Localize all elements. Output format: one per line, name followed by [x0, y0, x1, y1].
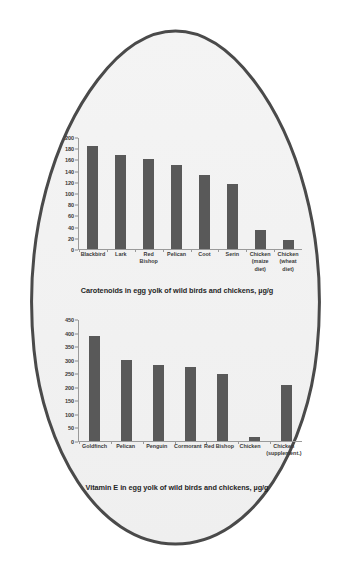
bar-slot [163, 138, 191, 249]
y-axis-tick-label: 200 [65, 385, 74, 391]
x-axis-tick-label: Pelican [163, 251, 191, 273]
bar [87, 146, 98, 249]
bar-series-carotenoids [79, 138, 302, 249]
x-axis-labels-vitamin-e: GoldfinchPelicanPenguinCormorantRed Bish… [79, 443, 302, 458]
x-axis-tick-label: Blackbird [79, 251, 107, 273]
bar [249, 437, 260, 441]
x-axis-tick-label: Chicken (maize diet) [246, 251, 274, 273]
egg-shaped-figure: 020406080100120140160180200 BlackbirdLar… [0, 0, 351, 572]
bar [255, 230, 266, 249]
bar-slot [218, 138, 246, 249]
bar-slot [191, 138, 219, 249]
y-axis-tick-label: 140 [65, 169, 74, 175]
y-axis-tick-label: 400 [65, 331, 74, 337]
x-axis-tick-label: Goldfinch [79, 443, 110, 458]
y-axis-tick-label: 350 [65, 344, 74, 350]
y-axis-tick-label: 0 [71, 247, 74, 253]
x-axis-tick-label: Coot [191, 251, 219, 273]
bar-slot [111, 320, 143, 441]
bar [143, 159, 154, 249]
y-axis-tick-label: 160 [65, 157, 74, 163]
y-axis-tick-label: 120 [65, 180, 74, 186]
bar-slot [206, 320, 238, 441]
x-axis-tick-label: Lark [107, 251, 135, 273]
y-axis-tick-label: 40 [68, 225, 74, 231]
bar-slot [270, 320, 302, 441]
bar-slot [135, 138, 163, 249]
x-axis-tick-label: Chicken [235, 443, 266, 458]
y-axis-tick-label: 80 [68, 202, 74, 208]
y-axis-tick-label: 200 [65, 135, 74, 141]
bar [217, 374, 228, 441]
bar-slot [274, 138, 302, 249]
bar [185, 367, 196, 441]
chart-caption-carotenoids: Carotenoids in egg yolk of wild birds an… [22, 286, 332, 295]
x-axis-tick-label: Chicken (wheat diet) [274, 251, 302, 273]
chart-carotenoids: 020406080100120140160180200 BlackbirdLar… [52, 138, 302, 298]
bar-slot [238, 320, 270, 441]
x-axis-tick-label: Chicken (supplement.) [266, 443, 302, 458]
bar [121, 360, 132, 441]
bar [171, 165, 182, 249]
bar [281, 385, 292, 441]
bar-slot [79, 320, 111, 441]
y-axis-tick-label: 180 [65, 146, 74, 152]
bar [283, 240, 294, 249]
x-axis-labels-carotenoids: BlackbirdLarkRed BishopPelicanCootSerinC… [79, 251, 302, 273]
y-axis-tick-label: 300 [65, 358, 74, 364]
x-axis-tick-label: Cormorant [172, 443, 203, 458]
y-axis-tick-label: 450 [65, 317, 74, 323]
y-axis-tick-label: 50 [68, 425, 74, 431]
bar [227, 184, 238, 249]
bar-slot [246, 138, 274, 249]
x-axis-tick-label: Red Bishop [203, 443, 234, 458]
bar-slot [107, 138, 135, 249]
bar [153, 365, 164, 441]
y-axis-tick-label: 100 [65, 412, 74, 418]
bar-slot [143, 320, 175, 441]
y-axis-tick-label: 20 [68, 236, 74, 242]
y-axis-tick-label: 150 [65, 398, 74, 404]
y-axis-carotenoids: 020406080100120140160180200 [52, 138, 78, 250]
y-axis-tick-label: 60 [68, 213, 74, 219]
chart-vitamin-e: 050100150200250300350400450 GoldfinchPel… [52, 320, 302, 495]
plot-area-vitamin-e: 050100150200250300350400450 [52, 320, 302, 442]
y-axis-tick-label: 250 [65, 371, 74, 377]
plot-area-carotenoids: 020406080100120140160180200 [52, 138, 302, 250]
bar [199, 175, 210, 249]
y-axis-vitamin-e: 050100150200250300350400450 [52, 320, 78, 442]
chart-caption-vitamin-e: Vitamin E in egg yolk of wild birds and … [22, 483, 332, 492]
y-axis-tick-label: 100 [65, 191, 74, 197]
bar [89, 336, 100, 441]
bar [115, 155, 126, 249]
bar-slot [79, 138, 107, 249]
x-axis-tick-label: Pelican [110, 443, 141, 458]
y-axis-tick-label: 0 [71, 439, 74, 445]
bar-series-vitamin-e [79, 320, 302, 441]
x-axis-tick-label: Red Bishop [135, 251, 163, 273]
x-axis-tick-label: Penguin [141, 443, 172, 458]
x-axis-tick-label: Serin [218, 251, 246, 273]
bar-slot [175, 320, 207, 441]
